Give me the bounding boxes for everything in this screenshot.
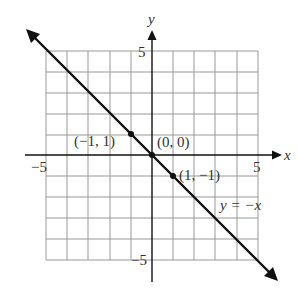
y-tick-5: 5 bbox=[138, 45, 146, 60]
point-neg1-1 bbox=[128, 131, 134, 137]
point-origin bbox=[149, 152, 155, 158]
equation-label: y = −x bbox=[220, 198, 261, 213]
x-tick-neg5: −5 bbox=[31, 160, 47, 175]
y-axis-arrow-icon bbox=[148, 30, 157, 40]
x-axis-arrow-icon bbox=[272, 151, 282, 160]
point-label-1-neg1: (1, −1) bbox=[179, 168, 220, 183]
y-tick-neg5: −5 bbox=[131, 253, 147, 268]
x-axis-label: x bbox=[284, 148, 291, 163]
point-1-neg1 bbox=[170, 173, 176, 179]
point-label-origin: (0, 0) bbox=[157, 135, 190, 150]
x-tick-5: 5 bbox=[253, 160, 261, 175]
point-label-neg1-1: (−1, 1) bbox=[74, 134, 115, 149]
y-axis-label: y bbox=[148, 12, 155, 27]
coordinate-plane bbox=[0, 0, 300, 291]
